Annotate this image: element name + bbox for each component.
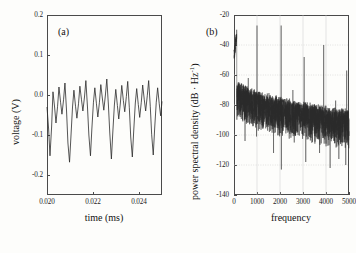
- panel-b-noise-floor: [234, 30, 349, 170]
- panel-b-plot: [176, 0, 353, 253]
- panel-a-plot: [0, 0, 176, 253]
- panel-b: (b) -20 -40 -60 -80 -100 -120 -140 0 100…: [176, 0, 353, 253]
- panel-a: (a) 0.2 0.1 0.0 -0.1 -0.2 0.020 0.022 0.…: [0, 0, 176, 253]
- panel-a-waveform: [47, 79, 162, 162]
